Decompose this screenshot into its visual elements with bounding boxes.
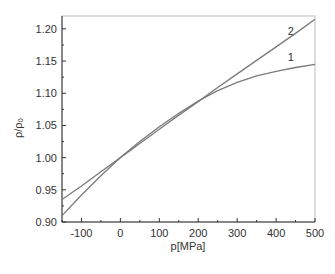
x-tick-label: -100	[70, 227, 92, 239]
y-tick-label: 0.90	[36, 216, 57, 228]
x-tick-label: 500	[306, 227, 324, 239]
curves	[62, 19, 315, 215]
y-axis-label: ρ/ρ₀	[12, 118, 24, 138]
y-tick-label: 1.10	[36, 87, 57, 99]
y-axis-ticks: 0.900.951.001.051.101.151.20	[36, 23, 66, 228]
curve-1	[62, 64, 315, 215]
y-tick-label: 1.20	[36, 23, 57, 35]
curve-label-2: 2	[288, 25, 294, 37]
x-tick-label: 100	[150, 227, 168, 239]
x-axis-ticks: -1000100200300400500	[62, 218, 324, 239]
curve-label-1: 1	[288, 51, 294, 63]
x-axis-label: p[MPa]	[171, 240, 206, 252]
curve-labels: 21	[288, 25, 294, 63]
line-chart: -1000100200300400500 0.900.951.001.051.1…	[0, 0, 335, 274]
y-tick-label: 0.95	[36, 184, 57, 196]
curve-2	[62, 19, 315, 199]
x-tick-label: 0	[117, 227, 123, 239]
y-tick-label: 1.05	[36, 119, 57, 131]
x-tick-label: 300	[228, 227, 246, 239]
y-tick-label: 1.00	[36, 152, 57, 164]
x-tick-label: 200	[189, 227, 207, 239]
y-tick-label: 1.15	[36, 55, 57, 67]
x-tick-label: 400	[267, 227, 285, 239]
